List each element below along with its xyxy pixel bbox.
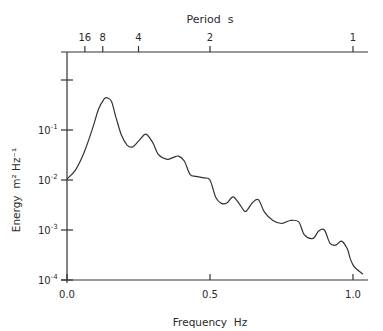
spectrum-curve <box>67 97 363 274</box>
x-tick-label: 0.0 <box>59 289 75 300</box>
y-tick-label: 10-4 <box>38 273 58 286</box>
period-tick-label: 2 <box>207 32 213 43</box>
y-tick-label: 10-1 <box>38 123 58 136</box>
x-axis: 0.00.51.0 <box>59 274 368 300</box>
top-axis-title: Period s <box>186 13 233 26</box>
x-tick-label: 1.0 <box>345 289 361 300</box>
period-tick-label: 4 <box>135 32 141 43</box>
top-period-axis: 168421 <box>61 32 368 52</box>
x-axis-title: Frequency Hz <box>173 316 248 328</box>
period-tick-label: 1 <box>350 32 356 43</box>
y-axis-title: Energy m² Hz⁻¹ <box>10 148 22 232</box>
x-tick-label: 0.5 <box>202 289 218 300</box>
y-axis: 10-410-310-210-1 <box>38 52 73 286</box>
y-tick-label: 10-2 <box>38 173 58 186</box>
energy-spectrum-chart: Period s 168421 10-410-310-210-1 0.00.51… <box>0 0 383 331</box>
y-tick-label: 10-3 <box>38 223 58 236</box>
period-tick-label: 16 <box>79 32 92 43</box>
period-tick-label: 8 <box>100 32 106 43</box>
